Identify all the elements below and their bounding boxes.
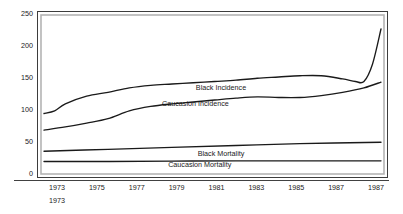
y-axis-tick-label: 200	[21, 41, 33, 50]
y-axis-tick-label: 0	[29, 169, 33, 178]
y-axis-tick-label: 250	[21, 9, 33, 18]
x-axis-tick-label: 1987	[328, 183, 344, 192]
x-axis-sub-label-text: 1973	[49, 196, 65, 205]
series-label: Black Incidence	[196, 83, 246, 92]
x-axis-tick-label: 1977	[129, 183, 145, 192]
series-label: Caucasion Mortality	[168, 160, 232, 169]
x-axis-tick-labels: 197319751977197919811983198519871987	[49, 183, 384, 192]
x-axis-tick-label: 1973	[49, 183, 65, 192]
x-axis-sub-label: 1973	[49, 196, 65, 205]
x-axis-tick-label: 1975	[89, 183, 105, 192]
y-axis-tick-label: 150	[21, 73, 33, 82]
x-axis-tick-label: 1983	[248, 183, 264, 192]
x-axis-tick-label: 1981	[209, 183, 225, 192]
y-axis-tick-label: 100	[21, 105, 33, 114]
y-axis-tick-labels: 050100150200250	[21, 9, 33, 178]
x-axis-tick-label: 1987	[368, 183, 384, 192]
line-chart: 050100150200250 197319751977197919811983…	[0, 0, 403, 214]
series-label: Caucasion Incidence	[162, 99, 229, 108]
series-label: Black Mortality	[198, 149, 245, 158]
chart-container: 050100150200250 197319751977197919811983…	[0, 0, 403, 214]
y-axis-tick-label: 50	[25, 137, 33, 146]
x-axis-tick-label: 1985	[288, 183, 304, 192]
x-axis-tick-label: 1979	[169, 183, 185, 192]
